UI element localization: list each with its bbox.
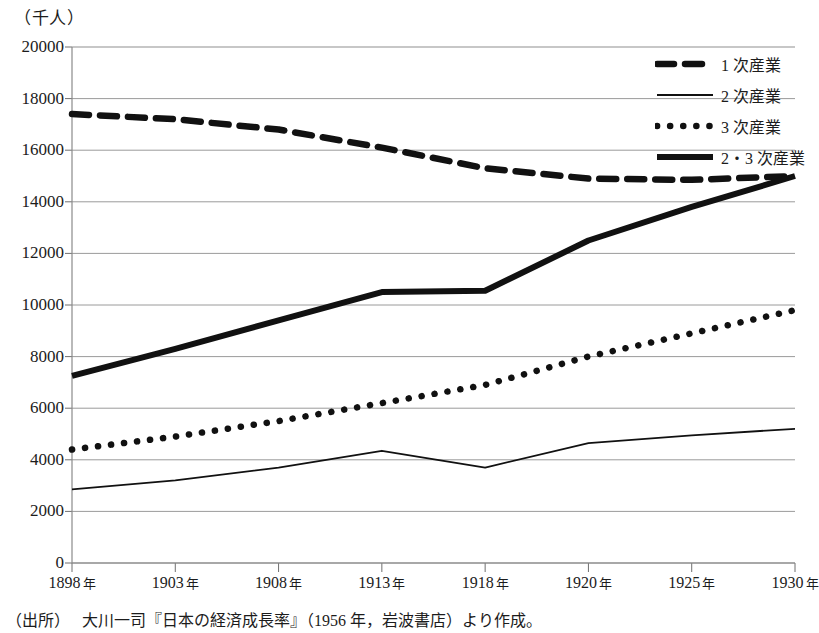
source-text: 大川一司『日本の経済成長率』（1956 年，岩波書店）より作成。 — [82, 612, 542, 629]
x-tick-label: 1920年 — [565, 573, 612, 592]
x-tick-label: 1908年 — [255, 573, 302, 592]
x-tick-label: 1903年 — [152, 573, 199, 592]
source-label: （出所） — [6, 612, 70, 629]
legend-label: 1 次産業 — [721, 52, 781, 76]
dotted-line-icon — [655, 118, 715, 134]
chart-legend: 1 次産業2 次産業3 次産業2・3 次産業 — [655, 48, 803, 172]
x-tick-label: 1898年 — [49, 573, 96, 592]
series-line-tertiary — [72, 310, 795, 449]
legend-item[interactable]: 3 次産業 — [655, 110, 803, 141]
x-tick-label: 1925年 — [668, 573, 715, 592]
thin-line-icon — [655, 87, 715, 103]
legend-item[interactable]: 2 次産業 — [655, 79, 803, 110]
legend-label: 2 次産業 — [721, 83, 781, 107]
x-tick-label: 1913年 — [358, 573, 405, 592]
legend-label: 3 次産業 — [721, 114, 781, 138]
series-line-combined — [72, 176, 795, 376]
legend-label: 2・3 次産業 — [721, 145, 805, 169]
thick-line-icon — [655, 149, 715, 165]
x-tick-label: 1918年 — [462, 573, 509, 592]
x-tick-label: 1930年 — [772, 573, 819, 592]
legend-item[interactable]: 2・3 次産業 — [655, 141, 803, 172]
dashed-line-icon — [655, 56, 715, 72]
source-note: （出所）大川一司『日本の経済成長率』（1956 年，岩波書店）より作成。 — [6, 607, 542, 631]
legend-item[interactable]: 1 次産業 — [655, 48, 803, 79]
series-line-secondary — [72, 429, 795, 490]
